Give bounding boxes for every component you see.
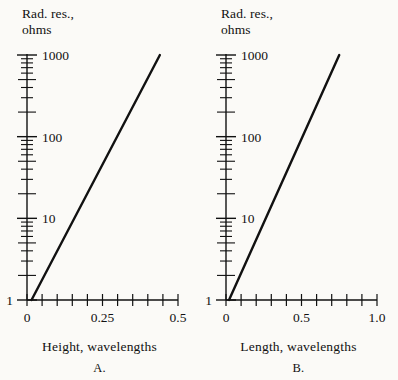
y-tick-label: 10 — [241, 211, 255, 226]
y-tick-label: 1000 — [241, 48, 268, 63]
chart-panel-b: Rad. res., ohms 110100100000.51.0 Length… — [199, 0, 398, 380]
y-tick-label: 10 — [42, 211, 56, 226]
y-tick-label: 1000 — [42, 48, 69, 63]
x-axis-label-b: Length, wavelengths — [199, 339, 398, 355]
data-line — [229, 55, 339, 300]
chart-panel-a: Rad. res., ohms 110100100000.250.5 Heigh… — [0, 0, 199, 380]
y-tick-label: 1 — [6, 293, 13, 308]
x-tick-label: 0.25 — [91, 310, 115, 325]
x-tick-label: 0 — [223, 310, 230, 325]
panel-letter-b: B. — [199, 361, 398, 376]
x-tick-label: 1.0 — [369, 310, 386, 325]
panel-letter-a: A. — [0, 361, 199, 376]
x-axis-label-a: Height, wavelengths — [0, 339, 199, 355]
y-tick-label: 100 — [42, 130, 63, 145]
plot-area-a: 110100100000.250.5 — [0, 0, 199, 330]
x-tick-label: 0.5 — [170, 310, 187, 325]
plot-area-b: 110100100000.51.0 — [199, 0, 398, 330]
data-line — [32, 55, 160, 300]
x-tick-label: 0.5 — [293, 310, 310, 325]
y-tick-label: 1 — [205, 293, 212, 308]
figure-root: Rad. res., ohms 110100100000.250.5 Heigh… — [0, 0, 398, 380]
y-tick-label: 100 — [241, 130, 262, 145]
x-tick-label: 0 — [24, 310, 31, 325]
